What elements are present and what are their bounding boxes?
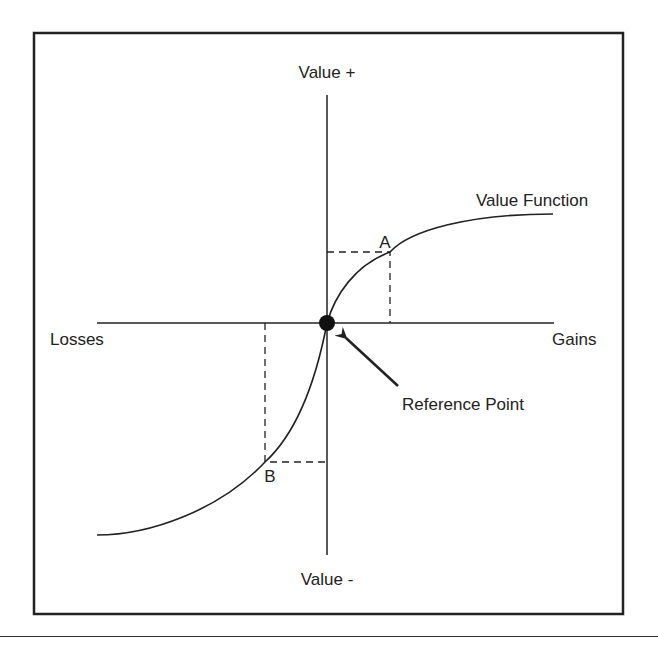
gains-label: Gains xyxy=(552,330,596,349)
page-divider xyxy=(0,636,658,637)
value-function-label: Value Function xyxy=(476,191,588,210)
y-negative-label: Value - xyxy=(301,570,354,589)
losses-label: Losses xyxy=(50,330,104,349)
value-function-curve xyxy=(97,214,553,535)
reference-point-arrow xyxy=(346,338,398,386)
reference-point-label: Reference Point xyxy=(402,395,524,414)
point-b-label: B xyxy=(264,467,275,486)
value-function-diagram: Value + Value - Losses Gains Value Funct… xyxy=(0,0,658,654)
y-positive-label: Value + xyxy=(299,63,356,82)
reference-point-dot xyxy=(319,315,335,331)
point-a-label: A xyxy=(379,233,391,252)
point-a-guides xyxy=(327,252,390,323)
point-b-guides xyxy=(265,323,327,462)
